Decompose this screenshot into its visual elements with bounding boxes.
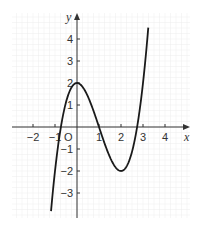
x-tick-label: 3 (140, 131, 146, 143)
y-tick-label: 4 (67, 33, 73, 45)
origin-label: O (64, 131, 73, 143)
function-curve (51, 28, 148, 211)
y-tick-label: 1 (67, 99, 73, 111)
x-tick-label: −2 (27, 131, 40, 143)
x-tick-label: 2 (118, 131, 124, 143)
y-tick-label: −1 (60, 143, 73, 155)
x-tick-label: 4 (162, 131, 168, 143)
grid (12, 13, 190, 218)
y-tick-label: −3 (60, 187, 73, 199)
y-axis-label: y (65, 10, 72, 24)
cubic-graph: −2−11234−3−2−11234 x y O (0, 0, 198, 229)
x-axis-label: x (183, 130, 190, 144)
y-tick-label: 3 (67, 55, 73, 67)
y-tick-label: −2 (60, 165, 73, 177)
y-axis-arrow-icon (74, 13, 80, 20)
